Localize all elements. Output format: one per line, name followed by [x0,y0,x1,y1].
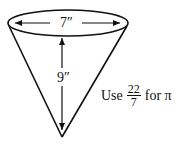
cone-left-edge [9,26,62,137]
note-suffix: for π [145,88,172,104]
cone-figure [0,0,188,149]
fraction-denominator: 7 [131,96,137,108]
diameter-label: 7″ [58,16,75,30]
cone-right-edge [62,26,127,137]
pi-approximation-note: Use 22 7 for π [101,83,172,108]
height-label: 9″ [56,70,71,86]
pi-fraction: 22 7 [127,83,141,108]
note-prefix: Use [101,88,123,104]
